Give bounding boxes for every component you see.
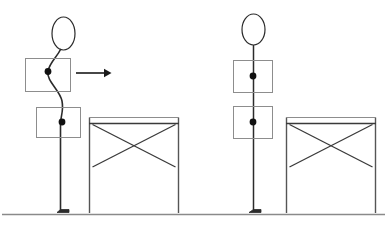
right-mass-node-lower: [250, 119, 257, 126]
diagram-canvas: [0, 0, 387, 229]
left-mass-node-lower: [59, 119, 66, 126]
background: [0, 0, 387, 229]
right-mass-node-upper: [250, 73, 257, 80]
structural-diagram-svg: [0, 0, 387, 229]
left-mass-node-upper: [45, 68, 52, 75]
